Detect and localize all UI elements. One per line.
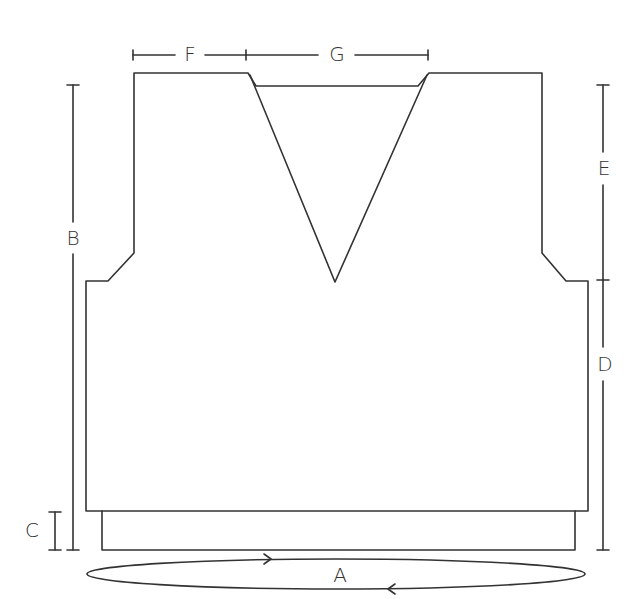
dimension-b [67,85,79,550]
label-g: G [325,43,349,65]
label-d: D [593,353,616,375]
ribbing-band [102,511,575,550]
label-f: F [180,43,200,65]
label-a: A [329,564,351,586]
dimension-e [597,85,609,280]
label-c: C [21,519,43,541]
label-b: B [62,227,83,249]
dimension-c [49,512,61,550]
vest-schematic: F G B C E D A [0,0,637,599]
body-outline [86,73,588,511]
schematic-drawing [0,0,637,599]
dimension-d [597,280,609,550]
label-e: E [594,157,615,179]
v-neckline [250,75,427,282]
